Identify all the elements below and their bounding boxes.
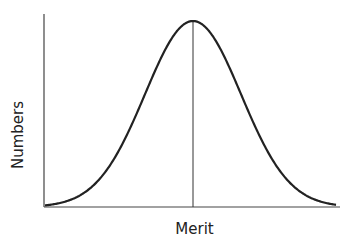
- y-axis-label-text: Numbers: [9, 101, 27, 169]
- y-axis-label: Numbers: [3, 90, 33, 180]
- x-axis-label: Merit: [0, 220, 353, 238]
- bell-curve-diagram: [0, 0, 353, 252]
- distribution-curve: [45, 21, 336, 205]
